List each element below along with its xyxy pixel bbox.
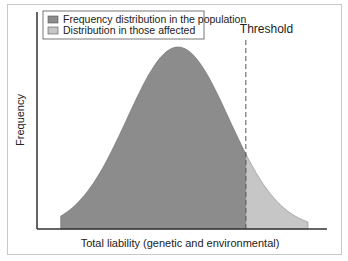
population-area [61, 47, 246, 229]
chart: Threshold Total liability (genetic and e… [0, 0, 348, 261]
x-axis-label: Total liability (genetic and environment… [81, 237, 280, 249]
legend: Frequency distribution in the population… [43, 11, 246, 39]
threshold-label: Threshold [240, 22, 293, 36]
y-axis-label: Frequency [14, 94, 26, 146]
legend-swatch-population [48, 16, 58, 23]
legend-swatch-affected [48, 27, 58, 34]
affected-area [246, 154, 308, 229]
legend-label-affected: Distribution in those affected [63, 24, 195, 36]
